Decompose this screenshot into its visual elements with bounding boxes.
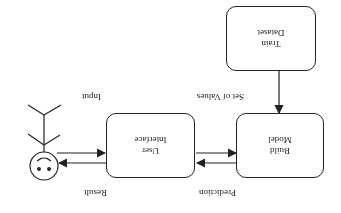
edge-label-input: Input [82, 92, 101, 102]
edge-label-prediction: Prediction [199, 188, 236, 198]
edge-label-set-of-values: Set of Values [197, 92, 244, 102]
diagram-canvas: Train Dataset Build Model User Interface… [0, 0, 341, 213]
node-train-dataset-line1: Train [261, 39, 280, 50]
user-actor-icon [28, 105, 61, 180]
node-build-model-line2: Model [268, 135, 292, 146]
node-user-interface-line2: Interface [135, 135, 167, 146]
node-train-dataset: Train Dataset [226, 6, 316, 71]
node-user-interface: User Interface [106, 113, 195, 178]
node-train-dataset-line2: Dataset [258, 28, 285, 39]
node-user-interface-line1: User [142, 146, 159, 157]
node-build-model-line1: Build [270, 146, 290, 157]
edge-label-result: Result [84, 188, 107, 198]
node-build-model: Build Model [236, 113, 324, 178]
